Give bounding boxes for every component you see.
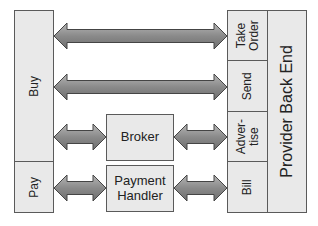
pay-box: Pay (14, 161, 54, 213)
payment-handler-label: Payment Handler (114, 174, 165, 204)
arrow-payment-handler-bill (174, 175, 227, 201)
send-box: Send (227, 60, 268, 112)
advertise-label: Adver- tise (235, 119, 260, 154)
buy-label: Buy (28, 76, 41, 97)
arrow-buy-take-order (54, 23, 227, 49)
take-order-label: Take Order (235, 20, 260, 51)
arrow-buy-send (54, 74, 227, 100)
pay-label: Pay (28, 177, 41, 198)
arrow-pay-payment-handler (54, 175, 106, 201)
advertise-line1: Adver- (235, 119, 248, 154)
take-order-line1: Take (235, 20, 248, 51)
bill-label: Bill (241, 179, 254, 195)
take-order-box: Take Order (227, 10, 268, 61)
broker-box: Broker (106, 114, 174, 161)
arrow-broker-advertise (174, 124, 227, 150)
arrow-buy-broker (54, 124, 106, 150)
advertise-line2: tise (248, 119, 261, 154)
provider-back-end-box: Provider Back End (267, 10, 307, 213)
take-order-line2: Order (248, 20, 261, 51)
advertise-box: Adver- tise (227, 111, 268, 162)
provider-back-end-label: Provider Back End (279, 45, 296, 178)
payment-handler-line1: Payment (114, 174, 165, 189)
buy-box: Buy (14, 10, 54, 162)
payment-handler-box: Payment Handler (106, 165, 174, 212)
send-label: Send (241, 72, 254, 100)
payment-handler-line2: Handler (114, 189, 165, 204)
bill-box: Bill (227, 161, 268, 213)
broker-label: Broker (121, 130, 159, 145)
